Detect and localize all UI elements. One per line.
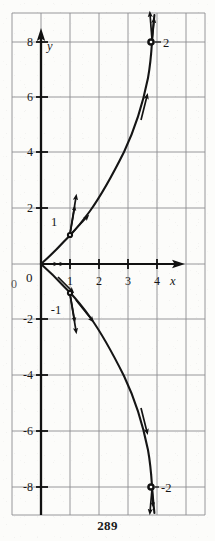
y-tick-label-4: 4 [27,145,33,159]
axis-name-labels: y x [45,39,176,288]
margin-zero-label: 0 [11,277,17,291]
arrow-upper-near-axis [76,300,92,320]
point-lower-unit-center [69,292,71,294]
page-number: 289 [0,518,215,534]
y-tick-label-neg2: -2 [23,312,33,326]
arrow-bottom-down-inner [152,489,153,505]
point-labels: 1 -1 2 -2 [51,36,172,495]
x-axis-label: x [169,274,176,288]
graph-figure: y x 8 6 4 2 -2 -4 -6 -8 1 2 3 4 [0,0,215,521]
y-tick-label-neg8: -8 [23,480,33,494]
y-tick-label-8: 8 [27,35,33,49]
y-tick-label-2: 2 [27,201,33,215]
y-tick-label-6: 6 [27,90,33,104]
point-upper-top-center [150,41,153,44]
x-tick-label-3: 3 [125,274,131,288]
x-tick-labels: 1 2 3 4 [67,274,160,288]
arrow-top-up-inner [152,20,154,40]
coordinate-plane-svg: y x 8 6 4 2 -2 -4 -6 -8 1 2 3 4 [0,0,215,521]
point-label-upper-unit: 1 [51,215,57,229]
origin-label: 0 [26,270,33,285]
point-label-lower-unit: -1 [51,303,61,317]
point-label-lower-bottom: -2 [161,481,171,495]
point-label-upper-top: 2 [163,36,169,50]
textbook-page: y x 8 6 4 2 -2 -4 -6 -8 1 2 3 4 [0,0,215,541]
x-tick-label-1: 1 [67,274,73,288]
y-tick-labels: 8 6 4 2 -2 -4 -6 -8 [23,35,33,494]
y-tick-label-neg4: -4 [23,368,33,382]
y-tick-label-neg6: -6 [23,424,33,438]
point-upper-unit-center [69,234,71,236]
x-tick-label-2: 2 [96,274,102,288]
curve-upper-branch [41,15,154,264]
y-axis-label: y [45,39,53,53]
origin-labels: 0 0 [11,270,33,291]
x-tick-label-4: 4 [154,274,160,288]
curve-lower-branch [41,264,154,513]
axes [37,28,185,515]
point-lower-bottom-center [150,486,153,489]
